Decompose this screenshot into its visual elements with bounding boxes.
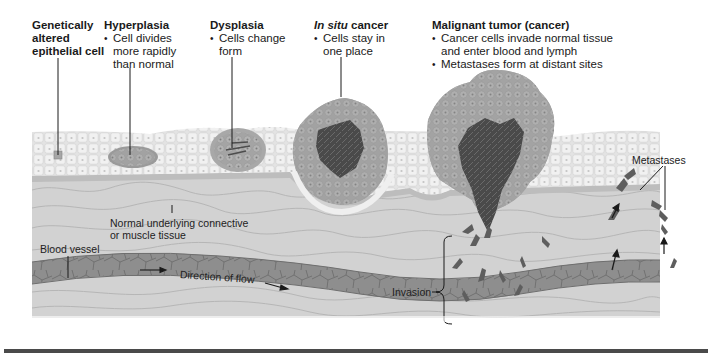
stage-title: In situ cancer (314, 19, 388, 32)
label-blood-vessel: Blood vessel (40, 243, 100, 255)
stage-title: Hyperplasia (104, 19, 176, 32)
label-line: or muscle tissue (110, 229, 248, 241)
label-malignant: Malignant tumor (cancer) Cancer cells in… (432, 19, 613, 71)
stage-title: Dysplasia (210, 19, 285, 32)
bullet-cont: and enter blood and lymph (432, 45, 613, 58)
stage-title-rest: cancer (348, 19, 388, 31)
label-genetically-altered: Genetically altered epithelial cell (32, 19, 104, 58)
bottom-rule (4, 349, 708, 353)
bullet: Cells stay in (314, 32, 388, 45)
bullet-cont: one place (314, 45, 388, 58)
label-metastases: Metastases (632, 154, 686, 166)
stage-title: Malignant tumor (cancer) (432, 19, 613, 32)
label-dysplasia: Dysplasia Cells change form (210, 19, 285, 58)
bullet: Metastases form at distant sites (432, 58, 613, 71)
bullet-cont: more rapidly (104, 45, 176, 58)
stage-title: altered (32, 32, 104, 45)
bullet: Cancer cells invade normal tissue (432, 32, 613, 45)
stage-title: Genetically (32, 19, 104, 32)
stage-title-italic: In situ (314, 19, 348, 31)
stage-title: epithelial cell (32, 45, 104, 58)
bullet-cont: form (210, 45, 285, 58)
bullet-cont: than normal (104, 58, 176, 71)
bullet: Cell divides (104, 32, 176, 45)
label-line: Normal underlying connective (110, 217, 248, 229)
label-in-situ: In situ cancer Cells stay in one place (314, 19, 388, 58)
bullet: Cells change (210, 32, 285, 45)
label-connective-tissue: Normal underlying connective or muscle t… (110, 217, 248, 241)
label-hyperplasia: Hyperplasia Cell divides more rapidly th… (104, 19, 176, 71)
label-invasion: Invasion (392, 286, 431, 298)
cancer-progression-diagram: Genetically altered epithelial cell Hype… (0, 0, 708, 354)
